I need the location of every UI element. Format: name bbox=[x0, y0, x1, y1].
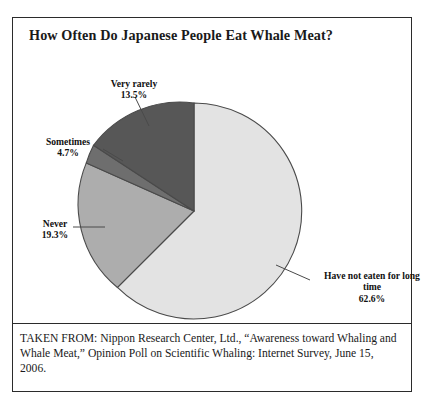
pie-label-very-rarely-name: Very rarely bbox=[99, 78, 169, 89]
figure-frame: How Often Do Japanese People Eat Whale M… bbox=[12, 17, 412, 392]
pie-chart-plot-area: Very rarely 13.5% Sometimes 4.7% Never 1… bbox=[13, 18, 411, 321]
source-caption: TAKEN FROM: Nippon Research Center, Ltd.… bbox=[20, 331, 402, 376]
pie-label-very-rarely-value: 13.5% bbox=[99, 89, 169, 100]
pie-label-have-not-eaten-name: Have not eaten for long time bbox=[316, 270, 426, 293]
pie-label-never: Never 19.3% bbox=[31, 218, 79, 241]
pie-label-sometimes: Sometimes 4.7% bbox=[35, 136, 101, 159]
pie-label-sometimes-value: 4.7% bbox=[35, 147, 101, 158]
pie-label-very-rarely: Very rarely 13.5% bbox=[99, 78, 169, 101]
caption-divider bbox=[13, 323, 411, 324]
pie-label-never-value: 19.3% bbox=[31, 229, 79, 240]
pie-label-sometimes-name: Sometimes bbox=[35, 136, 101, 147]
pie-label-have-not-eaten-value: 62.6% bbox=[316, 293, 426, 304]
pie-label-have-not-eaten: Have not eaten for long time 62.6% bbox=[316, 270, 426, 304]
pie-label-never-name: Never bbox=[31, 218, 79, 229]
